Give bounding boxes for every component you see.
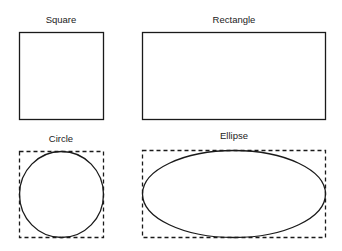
rectangle-shape (143, 33, 326, 120)
shapes-diagram (0, 0, 342, 251)
ellipse-shape (143, 151, 326, 238)
circle-shape (20, 152, 104, 238)
square-shape (20, 33, 104, 120)
